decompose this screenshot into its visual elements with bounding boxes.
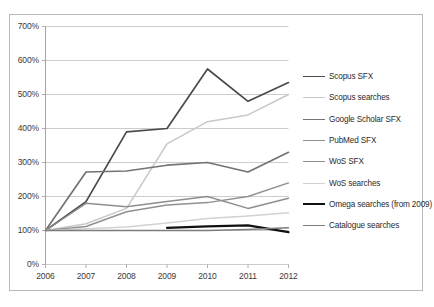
legend-label: Omega searches (from 2009) <box>329 200 432 209</box>
legend-label: WoS SFX <box>329 157 364 166</box>
y-tick-label: 600% <box>5 55 39 65</box>
series-lines <box>46 69 289 232</box>
legend-label: PubMed SFX <box>329 136 376 145</box>
x-tick-label: 2012 <box>271 271 307 281</box>
legend-swatch-line-icon <box>303 119 325 120</box>
legend-label: Scopus searches <box>329 93 390 102</box>
legend-swatch-line-icon <box>303 140 325 141</box>
y-tick-label: 700% <box>5 21 39 31</box>
x-tick-label: 2008 <box>109 271 145 281</box>
y-tick-label: 500% <box>5 89 39 99</box>
legend-swatch-line-icon <box>303 161 325 162</box>
x-tick-label: 2011 <box>230 271 266 281</box>
chart-legend: Scopus SFXScopus searchesGoogle Scholar … <box>303 66 429 236</box>
legend-item[interactable]: WoS SFX <box>303 151 429 172</box>
y-tick-label: 300% <box>5 157 39 167</box>
y-tick-label: 400% <box>5 123 39 133</box>
legend-swatch-line-icon <box>303 183 325 184</box>
x-tick-label: 2009 <box>149 271 185 281</box>
legend-swatch-line-icon <box>303 97 325 98</box>
legend-label: Scopus SFX <box>329 72 373 81</box>
y-tick-label: 200% <box>5 191 39 201</box>
legend-item[interactable]: Scopus searches <box>303 87 429 108</box>
legend-label: Catalogue searches <box>329 221 399 230</box>
x-tick-label: 2010 <box>190 271 226 281</box>
legend-label: WoS searches <box>329 179 380 188</box>
y-tick-label: 0% <box>5 259 39 269</box>
legend-item[interactable]: WoS searches <box>303 172 429 193</box>
x-tick-label: 2006 <box>28 271 64 281</box>
x-tick-label: 2007 <box>68 271 104 281</box>
legend-swatch-line-icon <box>303 203 325 205</box>
legend-item[interactable]: Omega searches (from 2009) <box>303 194 429 215</box>
legend-item[interactable]: Catalogue searches <box>303 215 429 236</box>
legend-item[interactable]: PubMed SFX <box>303 130 429 151</box>
legend-label: Google Scholar SFX <box>329 115 401 124</box>
series-line-2 <box>46 152 289 230</box>
legend-item[interactable]: Google Scholar SFX <box>303 109 429 130</box>
legend-swatch-line-icon <box>303 76 325 77</box>
legend-item[interactable]: Scopus SFX <box>303 66 429 87</box>
legend-swatch-line-icon <box>303 225 325 226</box>
chart-figure: 0%100%200%300%400%500%600%700% 200620072… <box>0 0 434 307</box>
y-tick-label: 100% <box>5 225 39 235</box>
